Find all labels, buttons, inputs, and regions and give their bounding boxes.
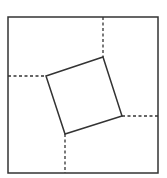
dashed-connector-lines xyxy=(8,17,158,173)
outer-square xyxy=(8,17,158,173)
inner-tilted-square xyxy=(46,57,122,134)
geometric-diagram xyxy=(0,0,167,178)
